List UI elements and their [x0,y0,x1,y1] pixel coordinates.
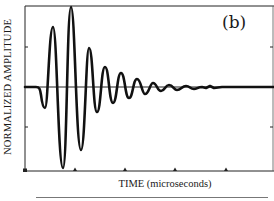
y-axis-label: NORMALIZED AMPLITUDE [2,7,16,167]
x-axis-label: TIME (microseconds) [95,178,235,189]
panel-label: (b) [222,12,246,32]
bottom-rule [36,197,268,198]
